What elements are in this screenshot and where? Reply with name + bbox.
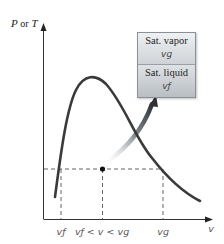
sat-vapor-cell: Sat. vapor vɡ bbox=[138, 33, 195, 65]
y-axis-label-or: or bbox=[20, 18, 28, 29]
y-axis-label-t: T bbox=[31, 17, 37, 29]
sat-liquid-cell: Sat. liquid vƒ bbox=[138, 65, 195, 97]
y-axis-arrow-icon bbox=[41, 23, 47, 31]
y-axis-label-p: P bbox=[11, 17, 18, 29]
sat-liquid-title: Sat. liquid bbox=[138, 65, 195, 79]
y-axis-label: P or T bbox=[11, 17, 38, 29]
saturation-properties-inset: Sat. vapor vɡ Sat. liquid vƒ bbox=[137, 32, 196, 98]
state-point bbox=[100, 166, 105, 171]
x-tick-label-mixture: vƒ < v < vɡ bbox=[75, 226, 129, 237]
x-axis-label: v bbox=[208, 223, 214, 234]
x-tick-label-vf: vƒ bbox=[57, 226, 66, 237]
x-tick-label-vg: vɡ bbox=[157, 226, 169, 237]
sat-liquid-symbol: vƒ bbox=[138, 79, 195, 93]
sat-vapor-title: Sat. vapor bbox=[138, 33, 195, 47]
sat-vapor-symbol: vɡ bbox=[138, 47, 195, 61]
x-axis-arrow-icon bbox=[205, 217, 213, 223]
